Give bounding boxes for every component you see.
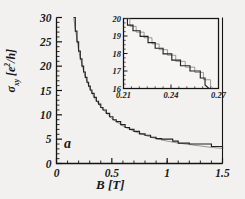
y-tick-label: 0 [46, 158, 52, 170]
y-axis-label-sigma: σ [4, 86, 18, 92]
x-tick-label: 1 [164, 167, 170, 179]
inset-y-tick-label: 18 [113, 49, 122, 59]
x-tick-label: 0 [54, 167, 60, 179]
y-axis-label-exponent: 2 [3, 63, 12, 67]
y-tick-label: 30 [39, 12, 52, 24]
inset-x-tick-label: 0.21 [116, 90, 131, 100]
y-axis-label-units-open: [e [4, 67, 18, 79]
y-axis-label-subscript: xy [12, 79, 21, 86]
inset-x-tick-label: 0.27 [211, 90, 227, 100]
y-tick-label: 15 [40, 85, 52, 97]
y-axis-label: σxy [e2/h] [3, 40, 20, 102]
x-axis-label: B [T] [96, 177, 125, 193]
panel-label: a [64, 136, 71, 152]
y-tick-label: 10 [40, 109, 52, 121]
inset-y-tick-label: 20 [112, 14, 122, 24]
inset-x-tick-label: 0.24 [164, 90, 179, 100]
y-tick-label: 20 [39, 60, 52, 72]
x-tick-label: 1.5 [215, 167, 230, 179]
inset-y-tick-label: 19 [113, 31, 122, 41]
figure-panel-a: 05101520253000.511.516171819200.210.240.… [0, 0, 245, 199]
y-axis-label-units-close: /h] [4, 49, 18, 63]
y-tick-label: 25 [39, 36, 52, 48]
sigma-xy-vs-b-chart: 05101520253000.511.516171819200.210.240.… [0, 0, 245, 199]
y-tick-label: 5 [46, 133, 52, 145]
inset-y-tick-label: 17 [113, 66, 122, 76]
